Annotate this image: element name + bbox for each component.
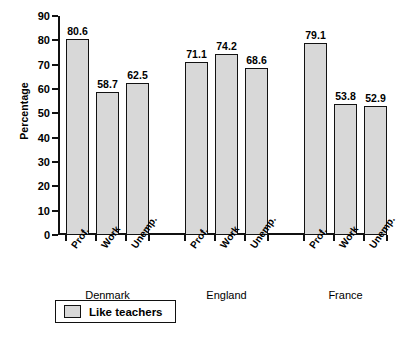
plot-area: 0102030405060708090 80.658.762.571.174.2… bbox=[58, 16, 370, 235]
bar bbox=[66, 39, 89, 235]
y-tick bbox=[52, 185, 58, 187]
x-group-label: England bbox=[206, 289, 246, 301]
y-tick bbox=[52, 161, 58, 163]
x-tick bbox=[148, 235, 150, 241]
y-tick bbox=[52, 210, 58, 212]
x-tick bbox=[363, 235, 365, 241]
y-tick bbox=[52, 234, 58, 236]
bar-value-label: 74.2 bbox=[216, 40, 236, 52]
y-tick-label: 70 bbox=[38, 59, 50, 71]
y-tick bbox=[52, 112, 58, 114]
bar-value-label: 68.6 bbox=[246, 54, 266, 66]
legend: Like teachers bbox=[55, 300, 176, 323]
bar bbox=[245, 68, 268, 235]
y-tick bbox=[52, 137, 58, 139]
bar-value-label: 71.1 bbox=[186, 48, 206, 60]
bar bbox=[185, 62, 208, 235]
x-tick bbox=[244, 235, 246, 241]
bar-value-label: 62.5 bbox=[127, 69, 147, 81]
x-tick bbox=[95, 235, 97, 241]
y-tick-label: 20 bbox=[38, 180, 50, 192]
legend-label: Like teachers bbox=[89, 306, 163, 318]
y-tick bbox=[52, 15, 58, 17]
y-tick-label: 50 bbox=[38, 107, 50, 119]
bar-value-label: 58.7 bbox=[97, 78, 117, 90]
x-tick bbox=[65, 235, 67, 241]
bar bbox=[364, 106, 387, 235]
bar-value-label: 79.1 bbox=[305, 29, 325, 41]
x-group-label: France bbox=[328, 289, 362, 301]
y-tick-label: 30 bbox=[38, 156, 50, 168]
x-tick bbox=[333, 235, 335, 241]
y-tick-label: 0 bbox=[44, 229, 50, 241]
bar bbox=[304, 43, 327, 235]
x-tick bbox=[303, 235, 305, 241]
y-tick bbox=[52, 39, 58, 41]
y-tick bbox=[52, 88, 58, 90]
y-axis-title: Percentage bbox=[18, 51, 30, 171]
x-tick bbox=[184, 235, 186, 241]
bar-value-label: 53.8 bbox=[335, 90, 355, 102]
x-tick bbox=[267, 235, 269, 241]
y-tick-label: 60 bbox=[38, 83, 50, 95]
x-tick bbox=[386, 235, 388, 241]
y-tick-label: 90 bbox=[38, 10, 50, 22]
y-tick bbox=[52, 64, 58, 66]
bar bbox=[96, 92, 119, 235]
bar bbox=[215, 54, 238, 235]
y-tick-label: 80 bbox=[38, 34, 50, 46]
bar bbox=[334, 104, 357, 235]
x-tick bbox=[125, 235, 127, 241]
bar bbox=[126, 83, 149, 235]
y-axis-line bbox=[58, 16, 60, 235]
legend-swatch-icon bbox=[64, 305, 81, 318]
y-tick-label: 40 bbox=[38, 132, 50, 144]
y-tick-label: 10 bbox=[38, 205, 50, 217]
x-tick bbox=[214, 235, 216, 241]
bar-value-label: 52.9 bbox=[365, 92, 385, 104]
bar-value-label: 80.6 bbox=[67, 25, 87, 37]
